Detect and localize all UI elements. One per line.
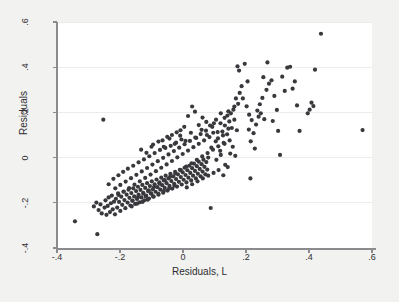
x-tick-label: .4 [305, 252, 313, 262]
x-tick-label: -.4 [52, 252, 63, 262]
scatter-plot-figure: -.4-.20.2.4.6 -.4-.20.2.4.6 Residuals, L… [0, 0, 399, 302]
y-tick-label: .6 [20, 0, 30, 47]
y-tick-label: -.2 [20, 178, 30, 227]
x-tick-label: 0 [180, 252, 185, 262]
x-tick-label: .2 [242, 252, 250, 262]
y-tick-label: .4 [20, 43, 30, 92]
y-tick-label: 0 [20, 133, 30, 182]
y-axis-title: Residuals [18, 91, 29, 135]
x-axis-title: Residuals, L [0, 266, 399, 277]
x-tick-label: .6 [368, 252, 376, 262]
x-tick-label: -.2 [115, 252, 126, 262]
